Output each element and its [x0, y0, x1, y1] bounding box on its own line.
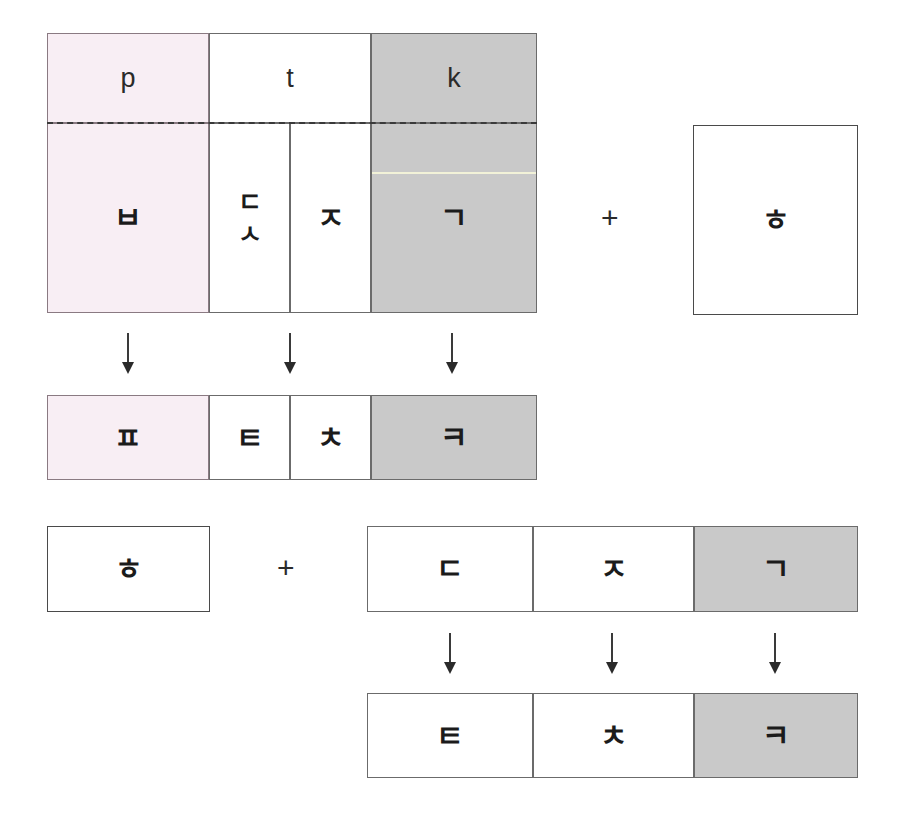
result1-cell-chieut: ㅊ: [290, 395, 371, 480]
source-cell-digeut-siot: ㄷ ㅅ: [209, 123, 290, 313]
source-label-p: p: [120, 65, 135, 92]
group1-arrow-1: [120, 333, 136, 375]
source2-label-jieut: ㅈ: [600, 554, 628, 584]
group2-label-hieut: ㅎ: [115, 554, 143, 584]
source2-label-digeut: ㄷ: [436, 554, 464, 584]
source2-cell-digeut: ㄷ: [367, 526, 533, 612]
source-label-jieut: ㅈ: [317, 203, 345, 233]
result2-label-chieut: ㅊ: [600, 721, 628, 751]
group1-arrow-2: [282, 333, 298, 375]
source-label-k: k: [447, 65, 461, 92]
source-cell-jieut: ㅈ: [290, 123, 371, 313]
result2-label-kieuk: ㅋ: [762, 721, 790, 751]
source-cell-p: p: [47, 33, 209, 123]
source-cell-bieup: ㅂ: [47, 123, 209, 313]
source2-cell-giyeok: ㄱ: [694, 526, 858, 612]
gray-cell-hairline: [372, 172, 536, 174]
group2-arrow-3: [767, 633, 783, 675]
group1-arrow-3: [444, 333, 460, 375]
group1-operand-box-hieut: ㅎ: [693, 125, 858, 315]
source-label-t: t: [286, 65, 294, 92]
source-label-bieup: ㅂ: [114, 203, 142, 233]
group1-label-hieut: ㅎ: [762, 205, 790, 235]
source-table-dashed-separator: [47, 122, 537, 124]
result1-cell-pieup: ㅍ: [47, 395, 209, 480]
group2-arrow-1: [442, 633, 458, 675]
source-cell-k: k: [371, 33, 537, 123]
source2-label-giyeok: ㄱ: [762, 554, 790, 584]
result1-cell-kieuk: ㅋ: [371, 395, 537, 480]
result2-cell-kieuk: ㅋ: [694, 693, 858, 778]
source2-cell-jieut: ㅈ: [533, 526, 694, 612]
result2-cell-tieut: ㅌ: [367, 693, 533, 778]
result1-cell-tieut: ㅌ: [209, 395, 290, 480]
group1-plus-operator: +: [601, 203, 619, 233]
source-label-digeut: ㄷ: [238, 189, 262, 215]
source-cell-giyeok: ㄱ: [371, 123, 537, 313]
result2-label-tieut: ㅌ: [436, 721, 464, 751]
group2-arrow-2: [604, 633, 620, 675]
result1-label-chieut: ㅊ: [317, 423, 345, 453]
group2-operand-box-hieut: ㅎ: [47, 526, 210, 612]
group2-plus-operator: +: [277, 553, 295, 583]
result1-label-tieut: ㅌ: [236, 423, 264, 453]
result2-cell-chieut: ㅊ: [533, 693, 694, 778]
result1-label-kieuk: ㅋ: [440, 423, 468, 453]
diagram-canvas: p t k ㅂ ㄷ ㅅ ㅈ ㄱ + ㅎ: [0, 0, 906, 821]
result1-label-pieup: ㅍ: [114, 423, 142, 453]
source-label-siot: ㅅ: [238, 221, 262, 247]
source-cell-t: t: [209, 33, 371, 123]
source-label-giyeok: ㄱ: [440, 203, 468, 233]
source-stack-digeut-siot: ㄷ ㅅ: [238, 189, 262, 247]
